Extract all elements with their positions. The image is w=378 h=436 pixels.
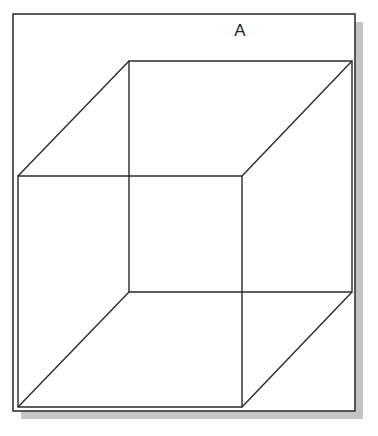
figure-label: A [234,21,246,40]
necker-cube-figure: A [0,0,378,436]
frame-border [13,14,355,411]
